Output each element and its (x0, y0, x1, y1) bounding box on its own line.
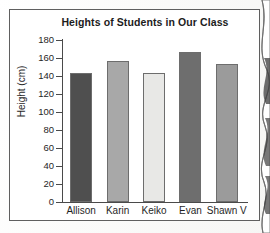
y-tick-label: 60 (28, 142, 54, 153)
y-tick-mark (56, 184, 62, 185)
y-tick-mark (56, 76, 62, 77)
y-tick-mark (56, 148, 62, 149)
y-tick-mark (56, 112, 62, 113)
bar (70, 73, 92, 202)
y-axis-title: Height (cm) (16, 49, 27, 135)
x-tick-label: Shawn V (206, 205, 248, 216)
y-tick-label: 0 (28, 196, 54, 207)
y-tick-mark (56, 166, 62, 167)
y-tick-label: 120 (28, 88, 54, 99)
y-tick-mark (56, 94, 62, 95)
y-tick-mark (56, 130, 62, 131)
y-tick-label: 100 (28, 106, 54, 117)
y-tick-mark (56, 40, 62, 41)
bar (179, 52, 201, 202)
bar (107, 61, 129, 202)
y-tick-label: 180 (28, 34, 54, 45)
plot-area (63, 40, 245, 202)
x-axis-line (62, 202, 248, 203)
y-tick-mark (56, 202, 62, 203)
y-tick-label: 40 (28, 160, 54, 171)
bar (143, 73, 165, 202)
y-tick-label: 140 (28, 70, 54, 81)
y-tick-mark (56, 58, 62, 59)
y-tick-label: 80 (28, 124, 54, 135)
chart-title: Heights of Students in Our Class (40, 16, 250, 28)
scanned-page: Heights of Students in Our Class Height … (0, 0, 270, 233)
y-tick-label: 20 (28, 178, 54, 189)
y-tick-label: 160 (28, 52, 54, 63)
bar (216, 64, 238, 202)
